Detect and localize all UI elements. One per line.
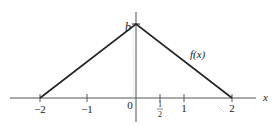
tick-label-1: 1	[181, 102, 187, 114]
tick-label-half-den: 2	[158, 110, 162, 119]
triangle-function-graph: −2 −1 0 1 2 1 2 x b f(x)	[0, 0, 280, 126]
faint-guide	[133, 30, 134, 96]
tick-label-0: 0	[127, 99, 133, 111]
x-axis-label: x	[262, 91, 268, 103]
tick-label-half-num: 1	[158, 100, 162, 109]
curve-label-fx: f(x)	[190, 48, 206, 61]
stray-mark	[218, 106, 224, 112]
tick-label-neg1: −1	[81, 103, 93, 115]
peak-label-b: b	[125, 20, 131, 34]
tick-label-2: 2	[229, 102, 235, 114]
tick-label-neg2: −2	[34, 103, 46, 115]
